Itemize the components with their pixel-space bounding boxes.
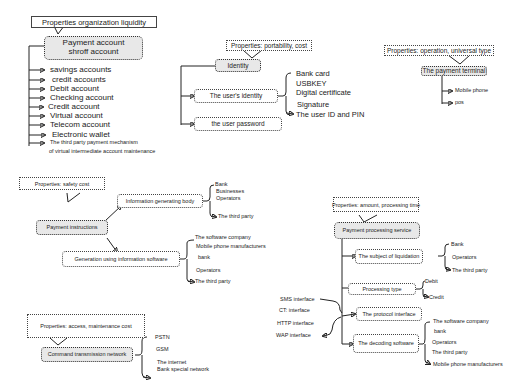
terminal-item: pos — [455, 100, 464, 106]
terminal-root-text: The payment terminal — [423, 67, 486, 74]
accounts-root-node[interactable]: Payment account shroff account — [44, 36, 143, 60]
liquidation-item: Bank — [451, 242, 464, 248]
info-generating-body-node[interactable]: Information generating body — [117, 194, 203, 208]
network-item: The internet — [157, 360, 186, 366]
type-item: Debit — [425, 279, 438, 285]
terminal-item: Mobile phone — [455, 88, 488, 94]
decoding-item: The third party — [432, 350, 467, 356]
account-item: Virtual account — [50, 112, 103, 120]
network-property-label: Properties: access, maintenance cost — [27, 314, 145, 338]
info-generating-body-text: Information generating body — [126, 198, 195, 204]
network-root-text: Command transmission network — [48, 351, 127, 357]
processing-root-text: Payment processing service — [343, 227, 412, 233]
processing-type-text: Processing type — [362, 286, 401, 292]
decoding-item: Mobile phone manufacturers — [433, 362, 503, 368]
terminal-property-label: Properties: operation, universal type — [384, 45, 494, 56]
body-item: The third party — [218, 214, 253, 220]
identity-item: Bank card — [296, 70, 330, 78]
identity-user-identity-node[interactable]: The user's identity — [194, 89, 278, 103]
body-item: Businesses — [216, 189, 244, 195]
account-item: credit accounts — [52, 76, 106, 84]
processing-root-node[interactable]: Payment processing service — [334, 222, 420, 239]
software-item: bank — [198, 255, 210, 261]
interface-item: SMS interface — [280, 297, 315, 303]
generation-software-node[interactable]: Generation using information software — [62, 251, 180, 267]
terminal-property-text: Properties: operation, universal type — [387, 47, 491, 54]
account-item-third-party-cont: of virtual intermediate account maintena… — [49, 149, 155, 155]
software-item: Mobile phone manufacturers — [196, 244, 266, 250]
generation-software-text: Generation using information software — [75, 256, 168, 262]
user-password-text: the user password — [211, 120, 264, 127]
liquidation-item: Operators — [452, 255, 476, 261]
liquidation-subject-text: The subject of liquidation — [359, 253, 420, 259]
identity-property-label: Properties: portability, cost — [226, 40, 312, 51]
processing-property-label: Properties: amount, processing time — [333, 197, 419, 212]
decoding-item: bank — [434, 329, 446, 335]
processing-type-node[interactable]: Processing type — [348, 283, 416, 295]
user-identity-text: The user's identity — [210, 92, 263, 99]
decoding-software-text: The decoding software — [358, 340, 414, 346]
identity-root-node[interactable]: Identity — [215, 59, 261, 72]
terminal-root-node[interactable]: The payment terminal — [421, 66, 487, 76]
account-item-third-party: The third party payment mechanism — [50, 140, 138, 146]
interface-item: HTTP interface — [277, 321, 314, 327]
account-item: savings accounts — [50, 66, 111, 74]
interface-item: WAP interface — [276, 333, 311, 339]
interface-item: CT: interface — [279, 308, 310, 314]
software-item: The third party — [195, 279, 230, 285]
software-item: The software company — [195, 235, 251, 241]
liquidation-subject-node[interactable]: The subject of liquidation — [355, 249, 423, 264]
network-root-node[interactable]: Command transmission network — [41, 347, 133, 362]
instructions-root-node[interactable]: Payment instructions — [36, 220, 108, 235]
type-item: Credit — [429, 295, 444, 301]
identity-root-text: Identity — [228, 62, 249, 69]
identity-item: The user ID and PIN — [296, 111, 364, 119]
liquidation-item: The third party — [452, 268, 487, 274]
decoding-item: The software company — [433, 319, 489, 325]
account-item: Checking account — [50, 94, 114, 102]
software-item: Operators — [196, 268, 220, 274]
account-item: Credit account — [48, 103, 100, 111]
identity-item: Signature — [297, 101, 329, 109]
processing-property-text: Properties: amount, processing time — [332, 202, 420, 208]
identity-user-password-node[interactable]: the user password — [194, 117, 282, 131]
protocol-interface-text: The protocol interface — [362, 311, 415, 317]
instructions-property-label: Properties: safety cost — [19, 177, 105, 190]
protocol-interface-node[interactable]: The protocol interface — [356, 307, 422, 321]
network-item: Bank special network — [157, 367, 209, 373]
identity-item: Digital certificate — [296, 89, 351, 97]
account-item: Debit account — [50, 85, 99, 93]
accounts-property-label: Properties organization liquidity — [31, 16, 157, 28]
accounts-root-line2: shroff account — [68, 48, 118, 57]
decoding-software-node[interactable]: The decoding software — [353, 334, 419, 353]
network-property-text: Properties: access, maintenance cost — [40, 323, 131, 329]
identity-property-text: Properties: portability, cost — [231, 42, 307, 49]
instructions-property-text: Properties: safety cost — [35, 181, 89, 187]
accounts-property-text: Properties organization liquidity — [42, 18, 146, 27]
body-item: Bank — [215, 182, 228, 188]
body-item: Operators — [216, 196, 240, 202]
network-item: PSTN — [155, 335, 170, 341]
instructions-root-text: Payment instructions — [46, 224, 97, 230]
identity-item: USBKEY — [296, 80, 326, 88]
network-item: GSM — [156, 347, 169, 353]
account-item: Telecom account — [50, 121, 110, 129]
decoding-item: Operators — [432, 340, 456, 346]
account-item: Electronic wallet — [52, 131, 110, 139]
